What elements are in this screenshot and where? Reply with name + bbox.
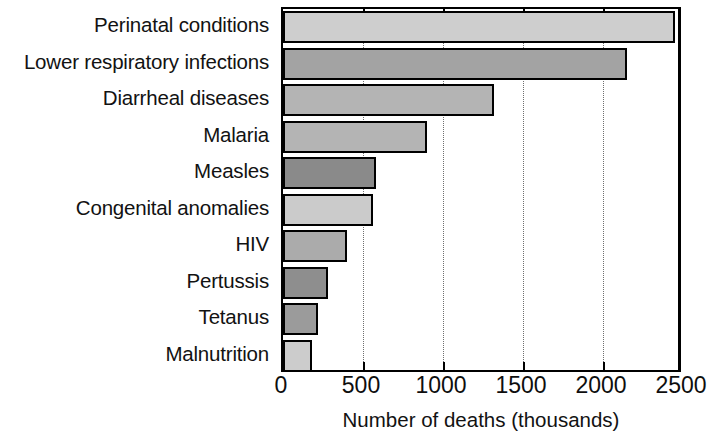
category-label: Diarrheal diseases bbox=[103, 88, 269, 109]
x-axis-title: Number of deaths (thousands) bbox=[281, 410, 681, 431]
bar bbox=[283, 121, 427, 153]
bar bbox=[283, 194, 373, 226]
x-tick-label: 1500 bbox=[495, 374, 546, 397]
bar bbox=[283, 84, 494, 116]
axis-tick bbox=[443, 362, 445, 370]
category-label: Malnutrition bbox=[165, 344, 269, 365]
category-axis-labels: Perinatal conditionsLower respiratory in… bbox=[0, 7, 275, 372]
category-label: Measles bbox=[194, 161, 269, 182]
category-label: Pertussis bbox=[186, 271, 269, 292]
category-label: Congenital anomalies bbox=[76, 198, 269, 219]
category-label: HIV bbox=[235, 234, 269, 255]
category-label: Malaria bbox=[203, 125, 269, 146]
x-tick-label: 1000 bbox=[415, 374, 466, 397]
bar bbox=[283, 267, 328, 299]
bar bbox=[283, 11, 675, 43]
x-axis-tick-labels: 05001000150020002500 bbox=[0, 374, 703, 406]
plot-inner bbox=[283, 9, 678, 370]
x-tick-label: 500 bbox=[342, 374, 380, 397]
x-tick-label: 2000 bbox=[575, 374, 626, 397]
axis-tick bbox=[363, 362, 365, 370]
bar bbox=[283, 157, 376, 189]
bar bbox=[283, 303, 318, 335]
category-label: Perinatal conditions bbox=[94, 15, 269, 36]
x-tick-label: 0 bbox=[275, 374, 288, 397]
axis-tick bbox=[603, 362, 605, 370]
bar bbox=[283, 48, 627, 80]
axis-tick bbox=[523, 362, 525, 370]
category-label: Tetanus bbox=[199, 307, 269, 328]
plot-area bbox=[281, 7, 681, 372]
x-tick-label: 2500 bbox=[655, 374, 706, 397]
bar bbox=[283, 230, 347, 262]
category-label: Lower respiratory infections bbox=[24, 52, 269, 73]
bar bbox=[283, 340, 312, 372]
